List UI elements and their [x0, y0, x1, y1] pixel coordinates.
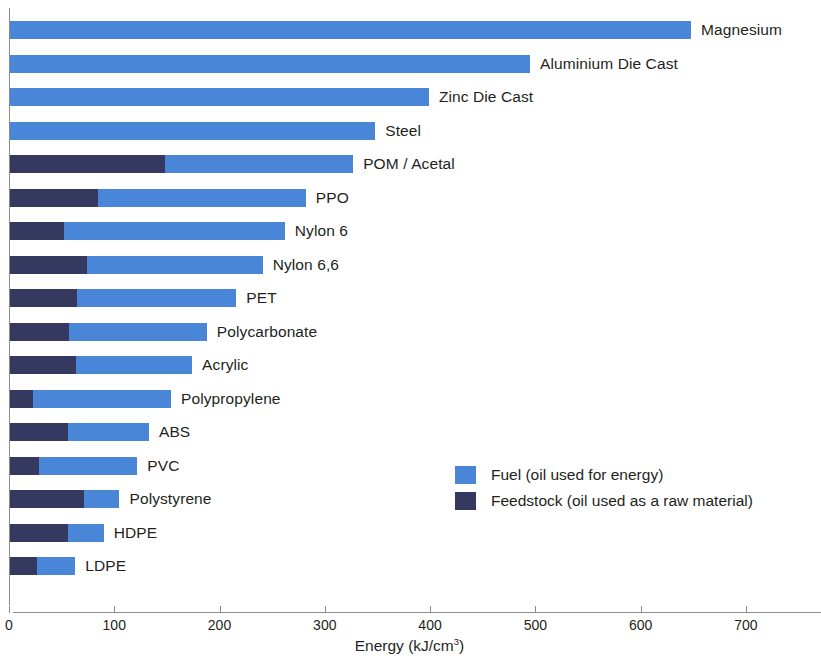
bar-segment-feedstock [10, 323, 69, 341]
bar-category-label: Acrylic [202, 356, 248, 374]
bar-segment-fuel [68, 423, 149, 441]
bar-segment-fuel [69, 323, 207, 341]
bar-category-label: Polypropylene [181, 390, 281, 408]
bar-segment-fuel [10, 55, 530, 73]
x-axis-tick-mark [325, 606, 326, 613]
bar-category-label: PVC [147, 457, 179, 475]
bar-category-label: LDPE [85, 557, 126, 575]
bar-segment-fuel [77, 289, 236, 307]
x-axis-title: Energy (kJ/cm3) [0, 637, 819, 655]
bar-row: Acrylic [10, 356, 809, 374]
x-axis-tick-label: 300 [313, 617, 336, 633]
bar-category-label: Steel [385, 122, 421, 140]
x-axis-title-superscript: 3 [454, 636, 459, 647]
bar-segment-fuel [87, 256, 263, 274]
bar-segment-feedstock [10, 289, 77, 307]
bar-category-label: PET [246, 289, 276, 307]
x-axis-tick-mark [9, 606, 10, 613]
x-axis-line [13, 612, 821, 613]
plot-area: MagnesiumAluminium Die CastZinc Die Cast… [9, 8, 809, 605]
bar-segment-feedstock [10, 390, 33, 408]
bar-row: PPO [10, 189, 809, 207]
x-axis-tick-label: 0 [5, 617, 13, 633]
bar-category-label: ABS [159, 423, 190, 441]
bar-segment-feedstock [10, 222, 64, 240]
bar-segment-feedstock [10, 524, 68, 542]
bar-segment-fuel [76, 356, 192, 374]
bar-row: Nylon 6 [10, 222, 809, 240]
x-axis-tick-label: 600 [629, 617, 652, 633]
bar-segment-fuel [39, 457, 137, 475]
bar-segment-feedstock [10, 557, 37, 575]
bar-category-label: Magnesium [701, 21, 782, 39]
legend-swatch [455, 492, 476, 510]
bar-row: Aluminium Die Cast [10, 55, 809, 73]
bar-segment-feedstock [10, 155, 165, 173]
bar-row: Zinc Die Cast [10, 88, 809, 106]
x-axis-tick-mark [746, 606, 747, 613]
bar-row: Steel [10, 122, 809, 140]
bar-segment-fuel [84, 490, 120, 508]
bar-segment-fuel [10, 88, 429, 106]
bar-segment-fuel [64, 222, 285, 240]
legend-label: Feedstock (oil used as a raw material) [491, 492, 753, 510]
bar-segment-fuel [68, 524, 104, 542]
legend-label: Fuel (oil used for energy) [491, 466, 663, 484]
bar-segment-fuel [33, 390, 171, 408]
x-axis-tick-label: 400 [418, 617, 441, 633]
legend-swatch [455, 466, 476, 484]
bar-category-label: Polycarbonate [217, 323, 317, 341]
legend-item: Feedstock (oil used as a raw material) [455, 488, 753, 514]
x-axis-tick-label: 700 [734, 617, 757, 633]
bar-segment-feedstock [10, 457, 39, 475]
bar-segment-fuel [10, 21, 691, 39]
bar-segment-fuel [98, 189, 305, 207]
bar-row: PET [10, 289, 809, 307]
bar-row: Magnesium [10, 21, 809, 39]
x-axis-tick-mark [430, 606, 431, 613]
chart-legend: Fuel (oil used for energy)Feedstock (oil… [455, 462, 753, 514]
bar-row: LDPE [10, 557, 809, 575]
x-axis-tick-mark [114, 606, 115, 613]
bar-row: Nylon 6,6 [10, 256, 809, 274]
bar-category-label: PPO [316, 189, 349, 207]
bar-category-label: Zinc Die Cast [439, 88, 533, 106]
bar-row: ABS [10, 423, 809, 441]
bar-row: POM / Acetal [10, 155, 809, 173]
legend-item: Fuel (oil used for energy) [455, 462, 753, 488]
bar-group: MagnesiumAluminium Die CastZinc Die Cast… [10, 8, 809, 605]
x-axis-tick-label: 500 [524, 617, 547, 633]
bar-row: HDPE [10, 524, 809, 542]
x-axis-tick-mark [641, 606, 642, 613]
bar-segment-feedstock [10, 490, 84, 508]
bar-row: Polypropylene [10, 390, 809, 408]
bar-segment-fuel [165, 155, 353, 173]
bar-category-label: Aluminium Die Cast [540, 55, 678, 73]
bar-segment-fuel [37, 557, 75, 575]
x-axis-tick-mark [535, 606, 536, 613]
bar-row: Polycarbonate [10, 323, 809, 341]
bar-segment-feedstock [10, 189, 98, 207]
bar-segment-feedstock [10, 256, 87, 274]
bar-category-label: Polystyrene [129, 490, 211, 508]
bar-segment-fuel [10, 122, 375, 140]
bar-category-label: POM / Acetal [363, 155, 455, 173]
x-axis-tick-label: 200 [208, 617, 231, 633]
bar-segment-feedstock [10, 356, 76, 374]
bar-category-label: Nylon 6,6 [273, 256, 339, 274]
bar-category-label: HDPE [114, 524, 157, 542]
bar-category-label: Nylon 6 [295, 222, 348, 240]
bar-segment-feedstock [10, 423, 68, 441]
x-axis-tick-mark [220, 606, 221, 613]
x-axis-tick-label: 100 [103, 617, 126, 633]
